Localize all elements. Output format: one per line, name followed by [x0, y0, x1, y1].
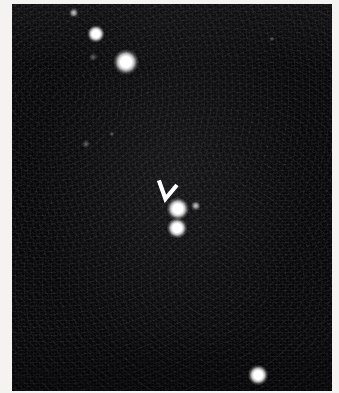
- star-mid-smudge-a: [82, 140, 90, 148]
- plate-margin-right: [332, 0, 339, 393]
- star-upper-left-faint: [89, 53, 97, 61]
- star-companion-right: [191, 201, 201, 211]
- star-bottom-right: [248, 365, 269, 386]
- plate-margin-left: [0, 0, 12, 393]
- plate-margin-top: [0, 0, 339, 4]
- star-right-upper-faint: [269, 36, 274, 41]
- star-lower-pair: [167, 218, 188, 239]
- chevron-arrowhead-marker: [152, 178, 182, 206]
- photographic-plate: [12, 4, 332, 393]
- star-top-small: [69, 8, 79, 18]
- star-upper-bright: [113, 49, 139, 75]
- star-mid-smudge-b: [109, 131, 114, 136]
- star-field-page: Dark grainy astronomical photograph of a…: [0, 0, 339, 393]
- star-upper-left: [87, 25, 105, 43]
